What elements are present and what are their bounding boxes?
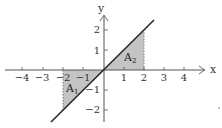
x-tick-label: −4 xyxy=(15,72,30,83)
y-axis-label: y xyxy=(97,2,105,15)
x-tick-label: 3 xyxy=(161,72,167,83)
x-tick-label: 4 xyxy=(181,72,187,83)
graph-canvas: −4 −3 −2 −1 1 2 3 4 2 1 −1 −2 x y A1 A2 xyxy=(0,0,222,128)
x-axis-label: x xyxy=(210,63,217,76)
y-tick-label: 1 xyxy=(94,45,100,56)
x-tick-label: 2 xyxy=(141,72,147,83)
y-tick-label: 2 xyxy=(94,24,100,35)
y-tick-label: −2 xyxy=(85,104,100,115)
stray-dot xyxy=(218,107,220,109)
x-tick-label: 1 xyxy=(121,72,127,83)
x-tick-label: −1 xyxy=(76,72,91,83)
x-tick-label: −3 xyxy=(35,72,50,83)
y-tick-label: −1 xyxy=(85,84,100,95)
